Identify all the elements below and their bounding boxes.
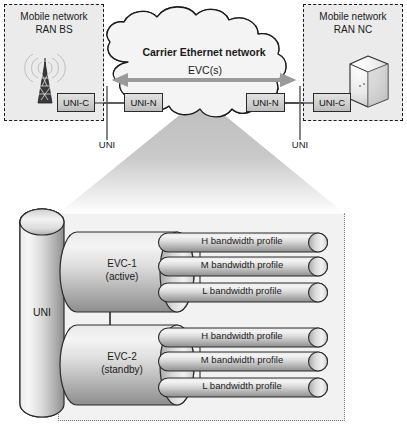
right-uni-c-box[interactable]: UNI-C <box>313 93 351 112</box>
right-uni-n-box[interactable]: UNI-N <box>246 93 285 112</box>
detail-panel <box>58 213 345 421</box>
magnifier-cone <box>58 110 345 214</box>
left-uni-c-box[interactable]: UNI-C <box>57 93 95 112</box>
diagram-canvas: Mobile network RAN BS Mobile network RAN… <box>0 0 407 433</box>
left-uni-n-box[interactable]: UNI-N <box>124 93 163 112</box>
